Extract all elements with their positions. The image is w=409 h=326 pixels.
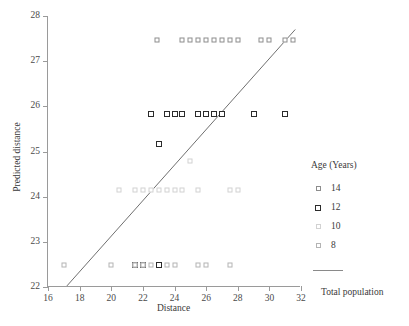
- data-point-age-14: [259, 37, 264, 42]
- x-axis-tick: [238, 286, 239, 291]
- legend-item-age-12[interactable]: 12: [311, 198, 407, 217]
- plot-canvas: [48, 16, 300, 286]
- y-axis-tick-label: 24: [31, 192, 41, 202]
- data-point-age-10: [148, 188, 153, 193]
- legend-item-age-10[interactable]: 10: [311, 217, 407, 236]
- legend-item-label: 10: [331, 222, 341, 232]
- data-point-age-12: [251, 111, 257, 117]
- trendline: [48, 16, 300, 286]
- x-axis-tick: [206, 286, 207, 291]
- data-point-age-12: [282, 111, 288, 117]
- data-point-age-8: [132, 263, 137, 268]
- x-axis-tick: [143, 286, 144, 291]
- square-marker-icon: [316, 186, 321, 191]
- legend-item-total-population[interactable]: [311, 261, 407, 280]
- data-point-age-12: [211, 111, 217, 117]
- legend-item-age-14[interactable]: 14: [311, 179, 407, 198]
- data-point-age-14: [227, 37, 232, 42]
- x-axis-tick: [175, 286, 176, 291]
- data-point-age-8: [140, 263, 145, 268]
- data-point-age-12: [164, 111, 170, 117]
- data-point-age-8: [148, 263, 153, 268]
- y-axis-tick-label: 26: [31, 102, 41, 112]
- y-axis-tick: [43, 242, 48, 243]
- data-point-age-14: [196, 37, 201, 42]
- x-axis-tick: [80, 286, 81, 291]
- data-point-age-8: [227, 263, 232, 268]
- data-point-age-10: [172, 188, 177, 193]
- data-point-age-14: [180, 37, 185, 42]
- data-point-age-12: [156, 141, 162, 147]
- legend-line-swatch: [313, 270, 343, 271]
- data-point-age-10: [196, 188, 201, 193]
- y-axis-tick-label: 23: [31, 237, 41, 247]
- data-point-age-12: [179, 111, 185, 117]
- y-axis-tick: [43, 152, 48, 153]
- data-point-age-8: [61, 263, 66, 268]
- x-axis-tick: [48, 286, 49, 291]
- legend-item-label: 12: [331, 203, 341, 213]
- data-point-age-14: [204, 37, 209, 42]
- y-axis-tick: [43, 61, 48, 62]
- data-point-age-8: [196, 263, 201, 268]
- square-marker-icon: [316, 224, 321, 229]
- data-point-age-8: [204, 263, 209, 268]
- data-point-age-14: [212, 37, 217, 42]
- data-point-age-14: [219, 37, 224, 42]
- legend-item-age-8[interactable]: 8: [311, 236, 407, 255]
- square-marker-icon: [316, 243, 321, 248]
- data-point-age-10: [180, 188, 185, 193]
- x-axis-tick: [301, 286, 302, 291]
- y-axis-tick-label: 28: [31, 11, 41, 21]
- plot-area: 22232425262728161820222426283032: [47, 16, 300, 287]
- legend-item-label: 14: [331, 184, 341, 194]
- data-point-age-12: [195, 111, 201, 117]
- data-point-age-12: [148, 111, 154, 117]
- data-point-age-10: [235, 188, 240, 193]
- data-point-age-10: [156, 188, 161, 193]
- x-axis-title: Distance: [47, 303, 300, 313]
- data-point-age-14: [267, 37, 272, 42]
- y-axis-tick: [43, 197, 48, 198]
- data-point-age-8: [172, 263, 177, 268]
- y-axis-title: Predicted distance: [12, 87, 22, 227]
- data-point-age-10: [132, 188, 137, 193]
- data-point-age-10: [164, 188, 169, 193]
- y-axis-tick: [43, 106, 48, 107]
- legend-item-label: 8: [331, 241, 336, 251]
- data-point-age-10: [188, 158, 193, 163]
- square-marker-icon: [315, 205, 321, 211]
- data-point-age-12: [219, 111, 225, 117]
- legend-line-label: Total population: [321, 287, 407, 297]
- data-point-age-14: [283, 37, 288, 42]
- legend-swatch-icon: [311, 243, 325, 248]
- data-point-age-10: [117, 188, 122, 193]
- data-point-age-12: [172, 111, 178, 117]
- data-point-age-8: [164, 263, 169, 268]
- y-axis-tick-label: 27: [31, 56, 41, 66]
- chart-figure: 22232425262728161820222426283032 Distanc…: [0, 0, 409, 326]
- data-point-age-14: [291, 37, 296, 42]
- y-axis-tick-label: 22: [31, 282, 41, 292]
- y-axis-tick: [43, 16, 48, 17]
- data-point-age-14: [235, 37, 240, 42]
- x-axis-tick: [111, 286, 112, 291]
- legend-swatch-icon: [311, 205, 325, 211]
- legend-swatch-icon: [311, 186, 325, 191]
- legend-title: Age (Years): [311, 160, 407, 170]
- data-point-age-14: [155, 37, 160, 42]
- legend: Age (Years) 1412108 Total population: [311, 160, 407, 297]
- data-point-age-10: [140, 188, 145, 193]
- data-point-age-8: [109, 263, 114, 268]
- legend-items: 1412108: [311, 179, 407, 255]
- x-axis-tick: [269, 286, 270, 291]
- data-point-age-12: [156, 262, 162, 268]
- data-point-age-12: [203, 111, 209, 117]
- legend-swatch-icon: [311, 224, 325, 229]
- data-point-age-14: [188, 37, 193, 42]
- data-point-age-10: [227, 188, 232, 193]
- y-axis-tick-label: 25: [31, 147, 41, 157]
